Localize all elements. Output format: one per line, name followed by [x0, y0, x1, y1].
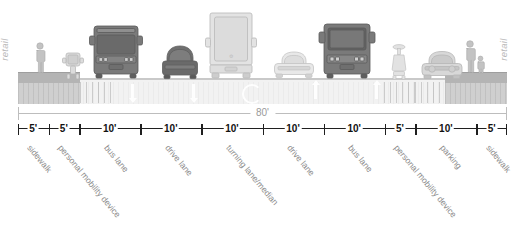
dimension-tick — [324, 124, 325, 135]
zone-label-drive-lane: drive lane — [285, 143, 317, 178]
street-cross-section-diagram: retail retail — [0, 0, 525, 238]
segment-dimension-3: 10' — [140, 122, 201, 136]
segment-dimension-0: 5' — [18, 122, 49, 136]
zone-label-turning-lane-median: turning lane/median — [224, 143, 280, 207]
u-turn-marking — [242, 84, 262, 104]
bus-vehicle-right — [318, 22, 376, 80]
overall-width-dimension: 80' — [18, 106, 507, 120]
zone-label-bus-lane: bus lane — [346, 143, 375, 174]
segment-width-label: 5' — [395, 122, 406, 135]
segment-dimension-9: 5' — [476, 122, 507, 136]
segment-width-label: 5' — [58, 122, 69, 135]
segment-width-label: 10' — [438, 122, 455, 135]
pmd-zone-striping-left — [80, 82, 111, 103]
lane-arrow-drive-right — [314, 84, 317, 99]
pedestrian-figure — [33, 42, 47, 74]
segment-dimension-6: 10' — [324, 122, 385, 136]
segment-dimension-4: 10' — [201, 122, 262, 136]
context-label-right-retail: retail — [498, 38, 509, 60]
dimension-end-left — [18, 107, 19, 120]
zone-label-drive-lane: drive lane — [163, 143, 195, 178]
segment-width-label: 10' — [285, 122, 302, 135]
dimension-tick — [415, 124, 416, 135]
curb-face-right — [445, 82, 507, 104]
segment-width-label: 5' — [486, 122, 497, 135]
dimension-tick — [18, 124, 19, 135]
dimension-tick-end — [506, 124, 507, 135]
segment-width-label: 10' — [224, 122, 241, 135]
car-vehicle-right — [272, 50, 316, 80]
dimension-tick — [140, 124, 141, 135]
segment-width-label: 10' — [163, 122, 180, 135]
lane-arrow-drive-left — [192, 84, 195, 99]
context-label-left-retail: retail — [0, 38, 10, 60]
dimension-tick — [263, 124, 264, 135]
lane-arrow-bus-right — [375, 84, 378, 99]
parked-car-vehicle — [420, 50, 464, 80]
overall-width-label: 80' — [250, 106, 275, 120]
dimension-tick — [49, 124, 50, 135]
zone-label-sidewalk: sidewalk — [25, 143, 54, 175]
dimension-end-right — [506, 107, 507, 120]
parking-zone-striping — [415, 82, 445, 103]
zone-label-bus-lane: bus lane — [102, 143, 131, 174]
bus-vehicle-left — [88, 24, 144, 80]
curb-face-left — [18, 82, 80, 104]
segment-dimension-5: 10' — [263, 122, 324, 136]
segment-width-label: 5' — [28, 122, 39, 135]
truck-vehicle: ⚙ — [205, 12, 257, 80]
segment-dimension-chain: 5'5'10'10'10'10'10'5'10'5' — [18, 122, 507, 136]
dimension-tick — [79, 124, 80, 135]
personal-mobility-device-left — [60, 52, 86, 80]
dimension-tick — [476, 124, 477, 135]
segment-dimension-2: 10' — [79, 122, 140, 136]
segment-width-label: 10' — [101, 122, 118, 135]
zone-label-parking: parking — [438, 143, 464, 171]
dimension-tick — [385, 124, 386, 135]
segment-dimension-7: 5' — [385, 122, 416, 136]
car-vehicle-left — [159, 44, 201, 80]
lane-arrow-bus-left — [131, 84, 134, 99]
dimension-tick — [201, 124, 202, 135]
personal-mobility-device-right — [387, 44, 411, 80]
pmd-zone-striping-right — [384, 82, 415, 103]
pedestrian-with-child-figure — [462, 40, 486, 74]
zone-label-sidewalk: sidewalk — [484, 143, 513, 175]
segment-width-label: 10' — [346, 122, 363, 135]
segment-dimension-1: 5' — [49, 122, 80, 136]
segment-dimension-8: 10' — [415, 122, 476, 136]
